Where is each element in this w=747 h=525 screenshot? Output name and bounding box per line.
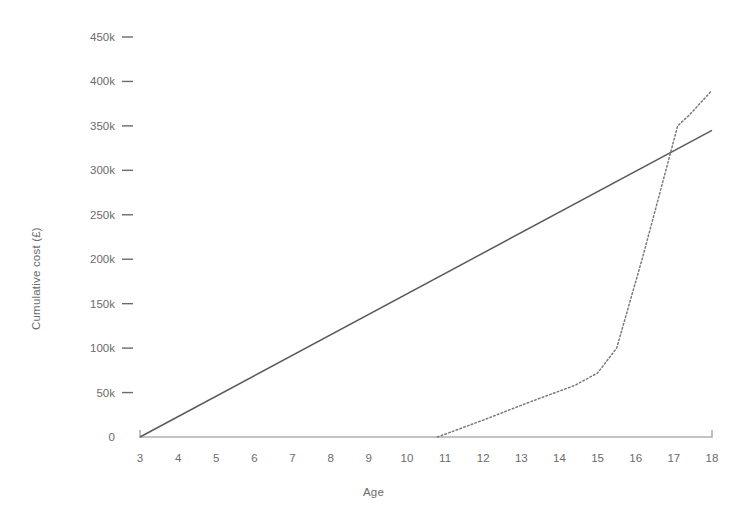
y-tick-label: 400k <box>55 75 115 87</box>
y-tick-label: 450k <box>55 31 115 43</box>
x-tick-label: 15 <box>591 452 604 464</box>
y-tick-label: 200k <box>55 253 115 265</box>
x-tick-label: 9 <box>366 452 372 464</box>
x-axis-title-text: Age <box>363 486 384 498</box>
y-tick-label: 250k <box>55 209 115 221</box>
x-axis-line <box>140 430 712 437</box>
y-tick-label: 100k <box>55 342 115 354</box>
x-tick-label: 7 <box>289 452 295 464</box>
series-dotted-line <box>437 90 712 437</box>
y-tick-marks <box>122 37 133 393</box>
x-axis-title: Age <box>0 486 747 498</box>
y-tick-label: 0 <box>55 431 115 443</box>
x-tick-label: 12 <box>477 452 490 464</box>
y-tick-label: 50k <box>55 387 115 399</box>
series-layer <box>140 90 712 437</box>
y-tick-label: 150k <box>55 298 115 310</box>
x-tick-label: 16 <box>629 452 642 464</box>
y-axis-title-text: Cumulative cost (£) <box>30 227 42 330</box>
x-tick-label: 4 <box>175 452 181 464</box>
y-tick-label: 300k <box>55 164 115 176</box>
x-tick-label: 18 <box>706 452 719 464</box>
x-tick-label: 17 <box>667 452 680 464</box>
x-tick-label: 5 <box>213 452 219 464</box>
x-tick-label: 13 <box>515 452 528 464</box>
y-tick-label: 350k <box>55 120 115 132</box>
series-solid-line <box>140 130 712 437</box>
x-tick-label: 10 <box>401 452 414 464</box>
x-tick-label: 11 <box>439 452 451 464</box>
x-tick-label: 6 <box>251 452 257 464</box>
chart-container: 050k100k150k200k250k300k350k400k450k 345… <box>0 0 747 525</box>
x-tick-label: 3 <box>137 452 143 464</box>
x-tick-label: 8 <box>327 452 333 464</box>
x-tick-label: 14 <box>553 452 566 464</box>
